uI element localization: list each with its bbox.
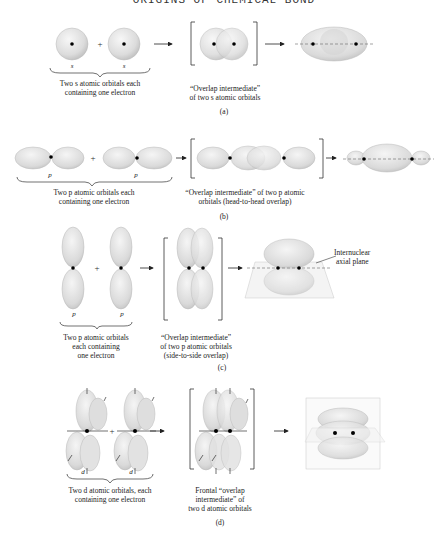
orbital-label-p-2: p (130, 171, 142, 180)
caption-b: (b) (204, 212, 244, 221)
caption-a: (a) (204, 107, 244, 116)
nucleus (70, 42, 74, 46)
orbital-label-d-1: d (77, 468, 89, 477)
panel-a: + (50, 22, 374, 77)
caption-c: (c) (202, 363, 242, 372)
svg-text:+: + (90, 153, 95, 163)
orbital-label-p-4: p (116, 310, 128, 319)
panel-a-middle-label: “Overlap intermediate” of two s atomic o… (170, 84, 280, 102)
orbital-label-p-3: p (68, 310, 80, 319)
panel-c: + (60, 227, 336, 329)
svg-text:+: + (109, 426, 114, 436)
orbital-label-s-2: s (118, 62, 130, 71)
panel-b-middle-label: “Overlap intermediate” of two p atomic o… (170, 188, 320, 206)
orbital-label-d-2: d (125, 468, 137, 477)
panel-b-left-label: Two p atomic orbitals each containing on… (34, 188, 154, 206)
panel-c-left-label: Two p atomic orbitals each containing on… (46, 333, 146, 360)
panel-d: + (66, 388, 385, 483)
svg-text:+: + (94, 263, 99, 273)
panel-d-left-label: Two d atomic orbitals, each containing o… (45, 486, 175, 504)
panel-d-middle-label: Frontal “overlap intermediate” of two d … (170, 486, 270, 513)
caption-d: (d) (200, 518, 240, 527)
panel-b: + (15, 139, 434, 186)
svg-text:+: + (97, 39, 102, 49)
internuclear-plane-label: Internuclear axial plane (334, 248, 394, 266)
orbital-label-s-1: s (66, 62, 78, 71)
orbital-label-p-1: p (44, 171, 56, 180)
panel-c-middle-label: “Overlap intermediate” of two p atomic o… (146, 333, 246, 360)
panel-a-left-label: Two s atomic orbitals each containing on… (40, 79, 160, 97)
